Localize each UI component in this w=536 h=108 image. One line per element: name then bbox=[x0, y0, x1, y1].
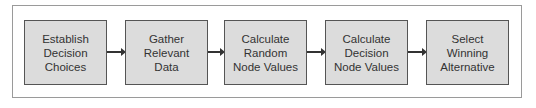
step-select-winning-alternative: Select Winning Alternative bbox=[426, 20, 509, 85]
step-gather-relevant-data: Gather Relevant Data bbox=[125, 20, 208, 85]
step-calculate-decision-node-values: Calculate Decision Node Values bbox=[325, 20, 408, 85]
arrow-right-icon bbox=[107, 51, 124, 53]
step-label: Gather Relevant Data bbox=[144, 32, 189, 74]
step-label: Calculate Decision Node Values bbox=[334, 32, 399, 74]
step-label: Calculate Random Node Values bbox=[233, 32, 298, 74]
arrow-right-icon bbox=[208, 51, 223, 53]
arrow-right-icon bbox=[307, 51, 324, 53]
step-establish-decision-choices: Establish Decision Choices bbox=[24, 20, 107, 85]
step-calculate-random-node-values: Calculate Random Node Values bbox=[224, 20, 307, 85]
arrow-right-icon bbox=[408, 51, 425, 53]
step-label: Establish Decision Choices bbox=[42, 32, 89, 74]
step-label: Select Winning Alternative bbox=[440, 32, 494, 74]
